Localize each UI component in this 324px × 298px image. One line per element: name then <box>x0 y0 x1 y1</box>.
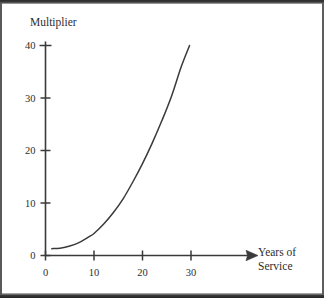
y-tick-label: 0 <box>30 250 35 261</box>
data-series-group <box>52 46 190 249</box>
y-tick-label: 10 <box>25 198 36 209</box>
y-tick-label: 40 <box>25 40 36 51</box>
y-tick-label: 30 <box>25 93 36 104</box>
figure-container: Multiplier 010203040 0102030 Years of Se… <box>0 0 324 298</box>
x-tick-label: 30 <box>186 267 197 278</box>
x-tick-label: 10 <box>89 267 100 278</box>
y-tick-label: 20 <box>25 145 36 156</box>
x-axis-title-line2: Service <box>258 260 292 272</box>
x-tick-label: 0 <box>43 267 48 278</box>
y-tick-labels: 010203040 <box>25 40 36 261</box>
x-axis-title-line1: Years of <box>258 246 296 258</box>
x-tick-labels: 0102030 <box>43 267 196 278</box>
data-series-curve <box>52 46 190 249</box>
y-axis-title: Multiplier <box>30 16 77 29</box>
x-axis-arrow-icon <box>246 250 258 260</box>
x-tick-label: 20 <box>137 267 148 278</box>
chart-plot: Multiplier 010203040 0102030 Years of Se… <box>0 0 324 298</box>
